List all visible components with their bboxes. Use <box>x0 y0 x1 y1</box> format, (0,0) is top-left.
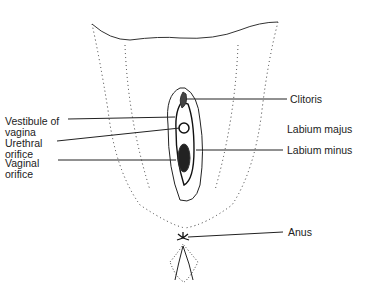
label-vaginal-orifice: Vaginal orifice <box>5 158 39 180</box>
label-clitoris: Clitoris <box>290 94 322 105</box>
label-labium-majus: Labium majus <box>287 124 352 135</box>
label-vestibule-of-vagina: Vestibule of vagina <box>5 116 59 138</box>
label-labium-minus: Labium minus <box>287 145 352 156</box>
label-anus: Anus <box>288 227 312 238</box>
